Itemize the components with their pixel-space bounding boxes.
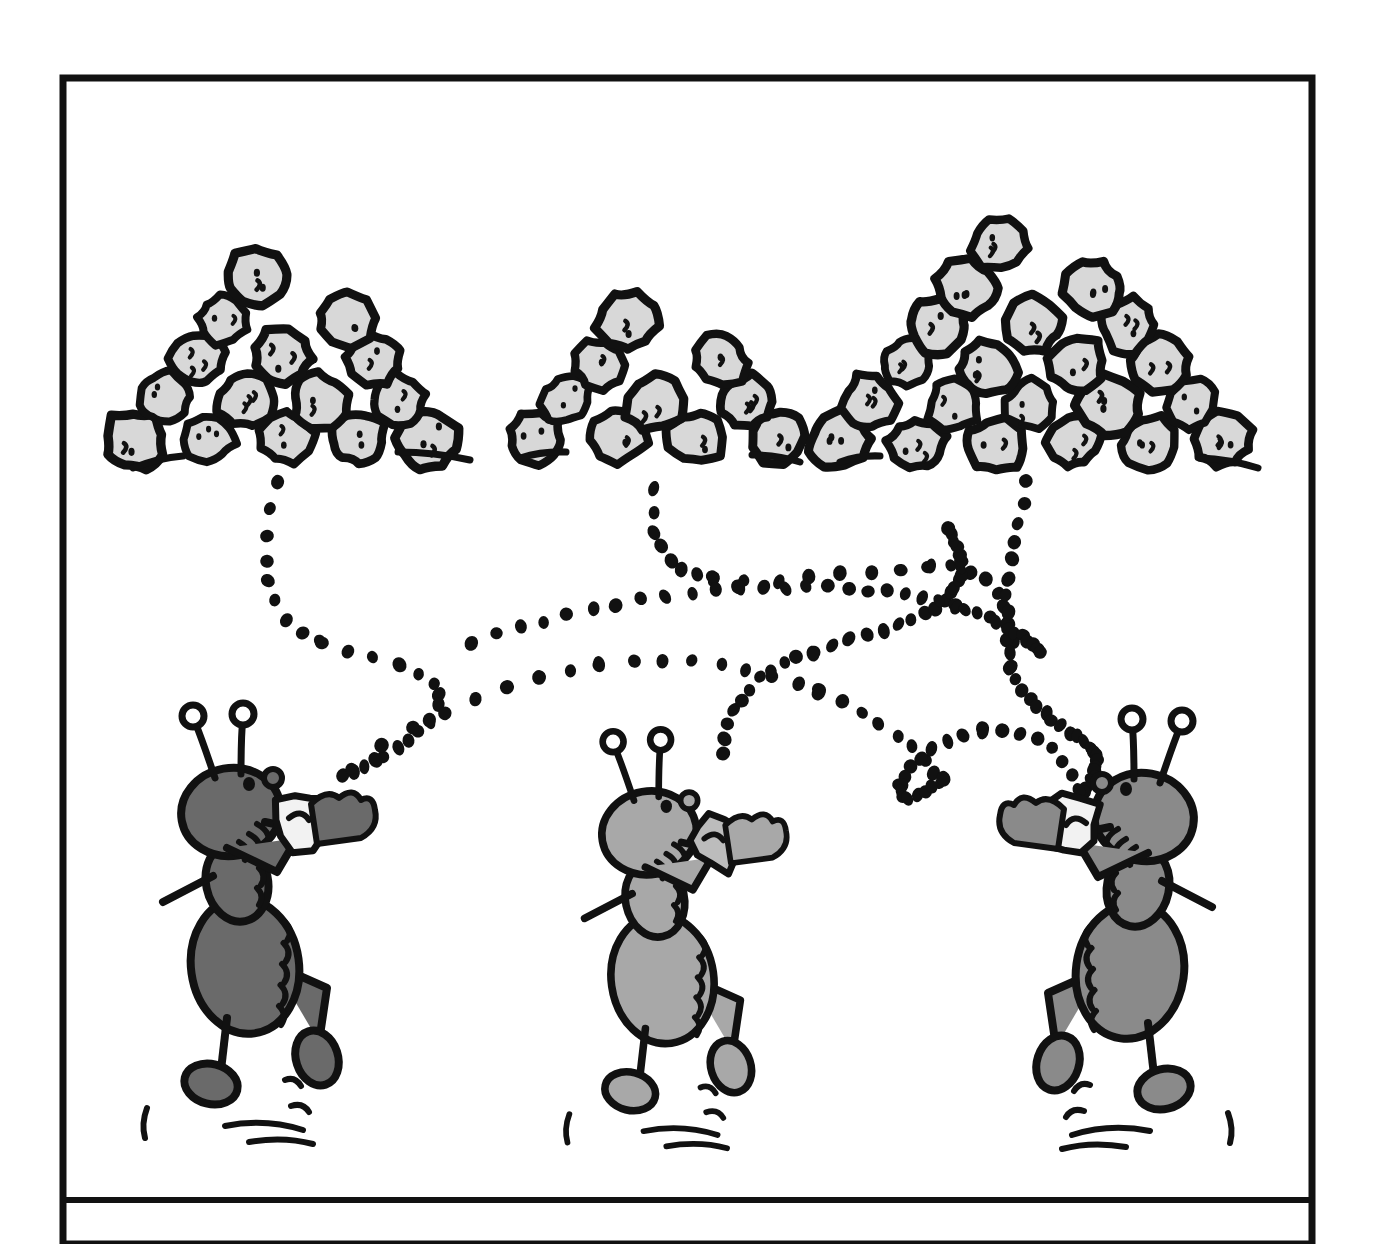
pebble-speckle [152, 391, 157, 398]
pebble-speckle [357, 430, 363, 438]
pebble-speckle [626, 330, 632, 338]
pebble-speckle [1070, 368, 1076, 376]
page-background [0, 0, 1376, 1244]
pebble-shape [1047, 338, 1102, 391]
pebble-speckle [827, 437, 833, 445]
ant-head-notch [681, 792, 698, 809]
pebble-speckle [155, 384, 160, 391]
pebble-speckle [1090, 290, 1096, 298]
ant-antenna-tip [603, 731, 624, 752]
ant-eye [1120, 782, 1132, 796]
pebble [320, 292, 376, 348]
pebble-speckle [436, 423, 442, 431]
pebble-speckle [952, 413, 957, 420]
pebble-speckle [1182, 394, 1187, 401]
pebble-speckle [561, 402, 566, 409]
cartoon-panel [0, 0, 1376, 1244]
pebble-speckle [990, 234, 996, 241]
ant-head-notch [1093, 774, 1111, 792]
pebble-speckle [353, 324, 359, 332]
pebble-speckle [702, 446, 708, 454]
pebble [595, 292, 660, 349]
pebble-speckle [872, 387, 878, 394]
pebble-speckle [838, 437, 844, 445]
pebble-speckle [981, 441, 987, 449]
pebble-speckle [1137, 439, 1143, 446]
ant-antenna-tip [650, 729, 671, 750]
pebble-speckle [954, 292, 960, 300]
pebble-speckle [1102, 285, 1108, 293]
pebble-speckle [539, 427, 545, 434]
cartoon-illustration [0, 0, 1376, 1244]
ant-eye [661, 800, 672, 813]
pebble [970, 219, 1028, 268]
ant-antenna-tip [182, 705, 204, 727]
pebble-speckle [214, 430, 219, 437]
ant-antenna-tip [1121, 708, 1143, 730]
pebble-speckle [718, 354, 724, 361]
pebble-speckle [395, 406, 401, 413]
pebble-speckle [622, 439, 628, 446]
pebble-speckle [1100, 405, 1106, 413]
pebble-speckle [976, 356, 982, 364]
ant-antenna-tip [1171, 710, 1193, 732]
pebble-speckle [1020, 401, 1025, 408]
pebble [1062, 261, 1120, 317]
pebble-speckle [521, 432, 527, 439]
pebble [228, 249, 287, 306]
pebble-shape [255, 329, 313, 385]
pebble-speckle [1194, 408, 1199, 415]
pebble-speckle [254, 269, 260, 277]
pebble-speckle [962, 291, 968, 299]
pebble-speckle [281, 442, 287, 449]
ant-antenna-tip [232, 703, 254, 725]
pebble-speckle [374, 347, 380, 355]
ant-head-notch [264, 769, 282, 787]
pebble-speckle [275, 365, 281, 373]
pebble-speckle [938, 312, 944, 320]
pebble-speckle [903, 447, 909, 455]
pebble-speckle [1101, 397, 1107, 405]
pebble-shape [1062, 261, 1120, 317]
pebble [255, 329, 313, 385]
pebble-shape [970, 219, 1028, 268]
pebble-speckle [310, 397, 316, 405]
pebble [1047, 338, 1102, 391]
ant-eye [243, 777, 255, 791]
pebble-shape [228, 249, 287, 306]
pebble-speckle [196, 433, 201, 440]
pebble-speckle [1228, 441, 1234, 449]
pebble-speckle [420, 440, 426, 448]
pebble-speckle [128, 448, 134, 456]
pebble-speckle [785, 444, 791, 452]
pebble-speckle [206, 426, 211, 433]
pebble-speckle [359, 441, 365, 449]
pebble-speckle [572, 385, 577, 392]
pebble-shape [320, 292, 376, 348]
pebble-speckle [212, 315, 217, 322]
